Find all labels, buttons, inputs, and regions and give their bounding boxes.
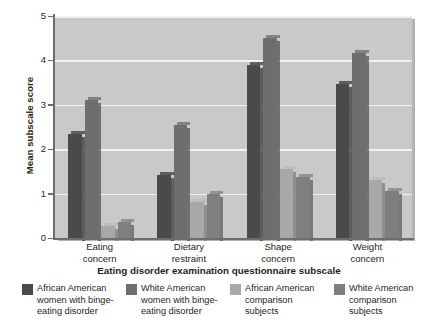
bar — [174, 125, 188, 238]
bar-top — [250, 62, 264, 65]
legend-item[interactable]: White Americanwomen with binge-eating di… — [126, 283, 230, 318]
x-category-label-line: restraint — [144, 253, 234, 265]
bar-top — [388, 188, 402, 191]
legend-item[interactable]: African Americanwomen with binge-eating … — [22, 283, 126, 318]
bar-face — [296, 177, 310, 238]
x-category-label: Eatingconcern — [55, 241, 145, 264]
bar-side — [310, 180, 313, 241]
x-category-label-line: Shape — [233, 241, 323, 253]
gridline — [55, 16, 412, 18]
legend-label-line: eating disorder — [37, 306, 114, 318]
bar-face — [336, 84, 350, 239]
bar-side — [98, 103, 101, 241]
y-tick-label: 0 — [4, 233, 46, 243]
bar — [207, 194, 221, 238]
bar — [296, 177, 310, 238]
legend-swatch — [126, 284, 137, 295]
y-tick-mark — [48, 149, 53, 151]
legend-swatch — [230, 284, 241, 295]
legend-label-line: African American — [245, 283, 314, 295]
legend-label-line: women with binge- — [37, 295, 114, 307]
x-category-label-line: Eating — [55, 241, 145, 253]
bar-top — [160, 172, 174, 175]
y-axis-line — [53, 14, 55, 240]
bar — [190, 202, 204, 238]
legend-swatch — [22, 284, 33, 295]
bar-face — [352, 53, 366, 238]
plot-area — [55, 16, 412, 238]
bar — [385, 191, 399, 239]
bar-face — [101, 226, 115, 238]
legend-label-line: African American — [37, 283, 114, 295]
bar — [85, 100, 99, 238]
bar — [157, 175, 171, 238]
bar-face — [85, 100, 99, 238]
bar — [247, 65, 261, 238]
bar-chart-figure: Mean subscale score 012345 Eatingconcern… — [0, 0, 438, 323]
legend-item[interactable]: White Americancomparisonsubjects — [334, 283, 438, 318]
x-category-label: Dietaryrestraint — [144, 241, 234, 264]
x-category-label: Weightconcern — [322, 241, 412, 264]
x-axis-title: Eating disorder examination questionnair… — [0, 265, 438, 276]
legend-label: White Americanwomen with binge-eating di… — [141, 283, 218, 318]
x-category-label-line: concern — [322, 253, 412, 265]
y-tick-mark — [48, 104, 53, 106]
bar-top — [71, 131, 85, 134]
x-axis-line — [53, 238, 414, 240]
bar — [118, 222, 132, 238]
legend-label-line: White American — [349, 283, 413, 295]
bar-face — [263, 38, 277, 238]
y-tick-label: 4 — [4, 55, 46, 65]
bar — [280, 169, 294, 238]
bar-face — [118, 222, 132, 238]
x-category-label: Shapeconcern — [233, 241, 323, 264]
bar-top — [283, 166, 297, 169]
legend-swatch — [334, 284, 345, 295]
legend-label: African Americancomparisonsubjects — [245, 283, 314, 318]
bar-face — [174, 125, 188, 238]
bar-face — [385, 191, 399, 239]
bar-face — [190, 202, 204, 238]
y-tick-mark — [48, 16, 53, 18]
x-category-label-line: concern — [233, 253, 323, 265]
bar-side — [399, 194, 402, 242]
bar — [68, 134, 82, 238]
y-tick-label: 3 — [4, 100, 46, 110]
bar-face — [157, 175, 171, 238]
y-tick-mark — [48, 193, 53, 195]
x-category-label-line: Weight — [322, 241, 412, 253]
legend-item[interactable]: African Americancomparisonsubjects — [230, 283, 334, 318]
legend-label-line: women with binge- — [141, 295, 218, 307]
bar-top — [355, 50, 369, 53]
y-tick-label: 1 — [4, 189, 46, 199]
y-tick-label: 5 — [4, 11, 46, 21]
bar-face — [68, 134, 82, 238]
bar-top — [372, 177, 386, 180]
legend-label-line: comparison — [349, 295, 413, 307]
legend-label-line: eating disorder — [141, 306, 218, 318]
legend-label: African Americanwomen with binge-eating … — [37, 283, 114, 318]
bar-top — [177, 122, 191, 125]
legend-label: White Americancomparisonsubjects — [349, 283, 413, 318]
y-tick-mark — [48, 60, 53, 62]
bar-top — [88, 97, 102, 100]
bar-top — [299, 174, 313, 177]
y-tick-label: 2 — [4, 144, 46, 154]
x-category-label-line: concern — [55, 253, 145, 265]
legend-label-line: subjects — [349, 306, 413, 318]
bar — [336, 84, 350, 239]
bar-top — [121, 219, 135, 222]
bar-face — [247, 65, 261, 238]
legend-label-line: comparison — [245, 295, 314, 307]
bar-face — [369, 180, 383, 238]
y-tick-mark — [48, 238, 53, 240]
bar-top — [193, 199, 207, 202]
bar-face — [280, 169, 294, 238]
bar-face — [207, 194, 221, 238]
x-category-label-line: Dietary — [144, 241, 234, 253]
bar — [263, 38, 277, 238]
bar — [352, 53, 366, 238]
legend-label-line: subjects — [245, 306, 314, 318]
bar-top — [210, 191, 224, 194]
legend: African Americanwomen with binge-eating … — [22, 283, 438, 318]
